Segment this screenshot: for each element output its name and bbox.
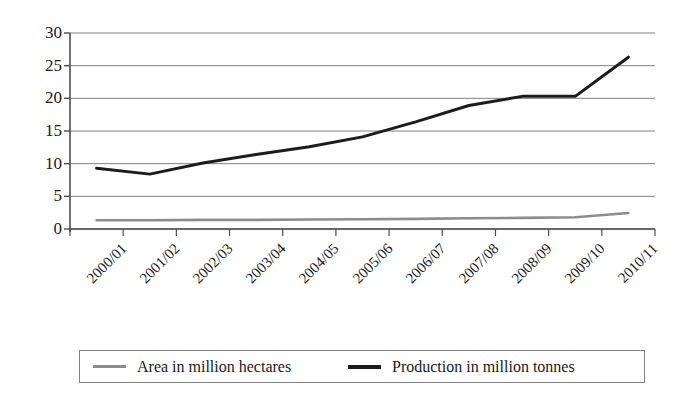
y-axis-tick-label: 20 [26, 89, 62, 106]
y-axis-tick-label: 30 [26, 24, 62, 41]
legend-item-production: Production in million tonnes [348, 351, 575, 382]
line-chart: 051015202530 2000/012001/022002/032003/0… [0, 0, 679, 400]
x-axis-ticks [70, 229, 655, 236]
series-line-production [97, 57, 629, 174]
legend-line-marker-area-icon [93, 365, 126, 368]
y-axis-tick-label: 25 [26, 57, 62, 74]
y-axis-tick-label: 5 [26, 187, 62, 204]
plot-canvas [0, 0, 679, 400]
y-axis-tick-label: 15 [26, 122, 62, 139]
y-axis-tick-label: 10 [26, 155, 62, 172]
chart-page: 051015202530 2000/012001/022002/032003/0… [0, 0, 679, 400]
data-series-lines [97, 57, 629, 220]
y-axis-ticks [64, 33, 70, 229]
legend-label-area: Area in million hectares [137, 358, 291, 376]
legend-label-production: Production in million tonnes [392, 358, 575, 376]
chart-legend: Area in million hectares Production in m… [79, 350, 645, 383]
gridlines [70, 33, 655, 229]
series-line-area [97, 213, 629, 220]
y-axis-tick-label: 0 [26, 220, 62, 237]
legend-item-area: Area in million hectares [93, 351, 291, 382]
legend-line-marker-production-icon [348, 365, 381, 369]
